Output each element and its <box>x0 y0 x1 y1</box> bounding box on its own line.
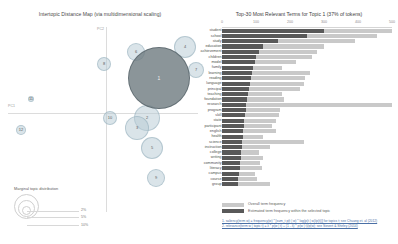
topic-bubble-9[interactable]: 9 <box>147 169 165 187</box>
term-label[interactable]: college <box>210 150 222 155</box>
x-tick-0: 0 <box>221 20 223 24</box>
term-label[interactable]: achievement <box>201 49 222 54</box>
term-label[interactable]: program <box>208 108 222 113</box>
size-value-10pct: 10% <box>81 223 88 227</box>
topic-bubble-12[interactable]: 12 <box>16 125 26 135</box>
topic-bubble-label: 9 <box>155 176 157 180</box>
size-circle-10pct <box>14 194 39 219</box>
bar-estimated-frequency <box>222 172 239 176</box>
term-label[interactable]: principal <box>208 87 222 92</box>
topic-bubble-1[interactable]: 1 <box>128 47 190 109</box>
x-tick-300: 300 <box>321 20 327 24</box>
page-title: Intertopic Distance Map (via multidimens… <box>0 11 200 17</box>
term-label[interactable]: health <box>211 134 221 139</box>
axis-label-pc1: PC1 <box>8 104 15 108</box>
term-label[interactable]: community <box>204 161 222 166</box>
bar-overall-frequency <box>222 103 392 107</box>
bar-estimated-frequency <box>222 140 242 144</box>
bar-chart-title: Top-30 Most Relevant Terms for Topic 1 (… <box>200 11 398 17</box>
bar-estimated-frequency <box>222 34 307 38</box>
term-label[interactable]: foundation <box>204 97 221 102</box>
topic-bubble-8[interactable]: 8 <box>97 57 111 71</box>
x-tick-400: 400 <box>355 20 361 24</box>
topic-bubble-5[interactable]: 5 <box>141 137 163 159</box>
bar-estimated-frequency <box>222 92 248 96</box>
term-label[interactable]: teaching <box>208 92 222 97</box>
term-label[interactable]: state <box>214 118 222 123</box>
bar-estimated-frequency <box>222 29 324 33</box>
term-label[interactable]: english <box>210 129 222 134</box>
term-label[interactable]: family <box>212 65 222 70</box>
bar-estimated-frequency <box>222 119 244 123</box>
topic-bubble-label: 5 <box>151 146 153 150</box>
legend-swatch-estimated <box>222 209 244 213</box>
size-value-2pct: 2% <box>81 208 86 212</box>
term-label[interactable]: skill <box>215 113 221 118</box>
term-label[interactable]: participant <box>204 124 221 129</box>
term-label[interactable]: study <box>213 39 222 44</box>
x-tick-200: 200 <box>287 20 293 24</box>
topic-bubble-label: 11 <box>29 97 33 101</box>
term-label[interactable]: school <box>211 34 222 39</box>
bar-estimated-frequency <box>222 103 246 107</box>
bar-estimated-frequency <box>222 124 244 128</box>
term-label[interactable]: literacy <box>210 166 222 171</box>
topic-bubble-label: 6 <box>135 50 137 54</box>
bar-estimated-frequency <box>222 82 250 86</box>
topic-bubble-label: 7 <box>195 68 197 72</box>
topic-bubble-label: 1 <box>158 76 161 81</box>
term-label[interactable]: writing <box>211 155 222 160</box>
term-label[interactable]: model <box>211 60 221 65</box>
bar-estimated-frequency <box>222 97 247 101</box>
term-label[interactable]: science <box>209 140 222 145</box>
topic-bubble-label: 4 <box>184 45 186 49</box>
marginal-topic-distribution-legend: Marginal topic distribution 2% 5% 10% <box>14 186 104 238</box>
bar-estimated-frequency <box>222 76 251 80</box>
topic-bubble-7[interactable]: 7 <box>188 62 204 78</box>
bar-chart-rows: studentschoolstudyeducationachievementch… <box>200 28 398 187</box>
legend-swatch-overall <box>222 203 244 207</box>
bar-estimated-frequency <box>222 150 241 154</box>
topic-bubble-3[interactable]: 3 <box>125 116 149 140</box>
bar-estimated-frequency <box>222 39 278 43</box>
term-label[interactable]: research <box>207 102 221 107</box>
bar-estimated-frequency <box>222 50 259 54</box>
x-tick-500: 500 <box>389 20 395 24</box>
topic-bubble-label: 10 <box>108 116 112 120</box>
topic-bubble-label: 3 <box>136 126 138 130</box>
size-tick-2pct <box>27 211 79 212</box>
bar-row[interactable]: group <box>200 182 398 187</box>
term-label[interactable]: campus <box>209 171 222 176</box>
bar-estimated-frequency <box>222 182 238 186</box>
term-label[interactable]: reading <box>209 76 221 81</box>
legend-row-estimated: Estimated term frequency within the sele… <box>222 209 398 216</box>
topic-bubble-label: 8 <box>103 62 105 66</box>
bar-estimated-frequency <box>222 129 243 133</box>
topic-bubble-10[interactable]: 10 <box>103 111 117 125</box>
term-label[interactable]: group <box>212 182 221 187</box>
term-label[interactable]: education <box>206 44 222 49</box>
bar-estimated-frequency <box>222 71 252 75</box>
bar-estimated-frequency <box>222 87 249 91</box>
topic-bubble-11[interactable]: 11 <box>28 96 34 102</box>
citation-list: 1. saliency(term w) = frequency(w) * [su… <box>222 219 398 229</box>
bar-estimated-frequency <box>222 156 241 160</box>
bar-estimated-frequency <box>222 55 256 59</box>
size-value-5pct: 5% <box>81 215 86 219</box>
legend-title: Marginal topic distribution <box>14 186 58 191</box>
term-label[interactable]: instruction <box>205 145 222 150</box>
x-tick-100: 100 <box>253 20 259 24</box>
pyldavis-visualization: Intertopic Distance Map (via multidimens… <box>0 0 398 244</box>
citation-link-2[interactable]: 2. relevance(term w | topic t) = λ * p(w… <box>222 224 398 229</box>
term-label[interactable]: student <box>209 28 221 33</box>
bar-estimated-frequency <box>222 145 242 149</box>
term-label[interactable]: course <box>210 177 221 182</box>
term-label[interactable]: learning <box>208 71 221 76</box>
topic-bubble-label: 12 <box>19 128 23 132</box>
legend-label-overall: Overall term frequency <box>248 202 285 206</box>
bar-estimated-frequency <box>222 66 253 70</box>
size-tick-5pct <box>27 217 79 218</box>
term-label[interactable]: children <box>209 55 222 60</box>
bar-estimated-frequency <box>222 44 263 48</box>
term-label[interactable]: language <box>206 81 221 86</box>
